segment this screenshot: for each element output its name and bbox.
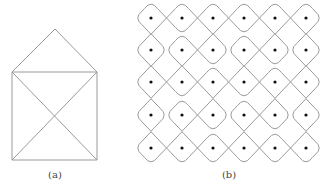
kolam-dot (211, 113, 214, 116)
kolam-dot (180, 146, 183, 149)
kolam-dot (180, 80, 183, 83)
kolam-loop (169, 36, 198, 66)
kolam-dot (149, 80, 152, 83)
kolam-dot (149, 146, 152, 149)
kolam-dot (273, 48, 276, 51)
figure-b-caption: (b) (222, 170, 236, 180)
kolam-dot (304, 80, 307, 83)
kolam-dot (242, 80, 245, 83)
figure-a-caption: (a) (48, 170, 62, 180)
kolam-dot (304, 16, 307, 19)
kolam-loop (198, 34, 227, 64)
kolam-loop (138, 132, 167, 162)
kolam-dot (211, 48, 214, 51)
house-edge (55, 29, 97, 72)
diagram-canvas (0, 0, 326, 188)
kolam-loop (231, 36, 260, 66)
kolam-dot (180, 113, 183, 116)
kolam-dot (180, 48, 183, 51)
kolam-dot (149, 48, 152, 51)
kolam-loop (169, 101, 198, 131)
house-edge (12, 29, 55, 72)
kolam-dot (242, 113, 245, 116)
kolam-dot (273, 80, 276, 83)
kolam-loop (198, 99, 227, 129)
kolam-loop (260, 34, 289, 64)
kolam-figure (138, 4, 319, 162)
kolam-dot (211, 80, 214, 83)
kolam-dot (242, 48, 245, 51)
kolam-loop (291, 4, 320, 34)
kolam-dot (304, 113, 307, 116)
kolam-dot (149, 16, 152, 19)
kolam-dot (242, 16, 245, 19)
kolam-dot (304, 146, 307, 149)
kolam-dot (149, 113, 152, 116)
kolam-dot (273, 146, 276, 149)
kolam-dot (242, 146, 245, 149)
kolam-loop (231, 101, 260, 131)
kolam-loop (138, 4, 167, 34)
house-figure (12, 29, 97, 160)
kolam-dot (180, 16, 183, 19)
kolam-dot (211, 16, 214, 19)
kolam-dot (273, 113, 276, 116)
kolam-loop (260, 99, 289, 129)
kolam-dot (304, 48, 307, 51)
kolam-dot (273, 16, 276, 19)
kolam-dot (211, 146, 214, 149)
kolam-loop (291, 132, 320, 162)
